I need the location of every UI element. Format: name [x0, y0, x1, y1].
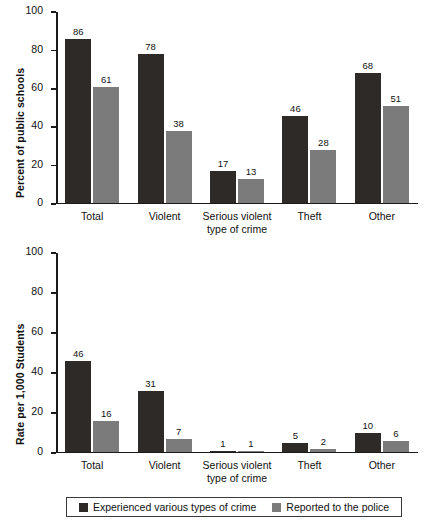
chart-panel-rate: Rate per 1,000 Students 1008060402004616… — [0, 240, 434, 490]
x-category-label-other: Other — [346, 459, 418, 472]
legend-color-swatch — [272, 503, 281, 512]
y-axis-line-bottom — [56, 253, 58, 453]
bar-value-label: 16 — [101, 408, 112, 419]
y-axis-tick-label: 40 — [31, 365, 43, 377]
bar-other-light: 51 — [383, 106, 409, 204]
x-category-label-line1: Violent — [149, 210, 181, 222]
y-axis-tick-label: 0 — [37, 445, 43, 457]
y-axis-tick-label: 0 — [37, 196, 43, 208]
x-category-label-serious-violent: Serious violenttype of crime — [201, 459, 273, 484]
y-axis-tick-label: 60 — [31, 325, 43, 337]
x-category-label-violent: Violent — [128, 459, 200, 472]
bar-value-label: 46 — [290, 103, 301, 114]
dual-bar-chart-figure: Percent of public schools 10080604020086… — [0, 0, 434, 527]
y-axis-tick-label: 20 — [31, 405, 43, 417]
bar-value-label: 1 — [220, 438, 225, 449]
legend-label: Reported to the police — [286, 501, 389, 513]
bar-value-label: 6 — [393, 428, 398, 439]
x-category-label-total: Total — [56, 210, 128, 223]
y-axis-tick-label: 100 — [25, 4, 43, 16]
legend-color-swatch — [79, 503, 88, 512]
plot-area-bottom: 10080604020046163171152106 — [56, 253, 418, 453]
bar-other-dark: 10 — [355, 433, 381, 453]
bar-violent-light: 38 — [166, 131, 192, 204]
bar-value-label: 86 — [73, 26, 84, 37]
x-axis-title: type of crime — [201, 223, 273, 236]
x-category-label-line1: Theft — [297, 210, 321, 222]
y-axis-tick-label: 80 — [31, 43, 43, 55]
x-category-label-theft: Theft — [273, 459, 345, 472]
bar-value-label: 61 — [101, 74, 112, 85]
y-axis-tick-label: 40 — [31, 119, 43, 131]
x-category-label-line1: Total — [81, 210, 103, 222]
y-axis-line-top — [56, 12, 58, 204]
bar-theft-dark: 46 — [282, 116, 308, 204]
bar-value-label: 28 — [318, 137, 329, 148]
bar-value-label: 17 — [218, 158, 229, 169]
bar-value-label: 68 — [363, 60, 374, 71]
bar-violent-dark: 31 — [138, 391, 164, 453]
x-category-label-violent: Violent — [128, 210, 200, 223]
bar-value-label: 5 — [293, 430, 298, 441]
legend-label: Experienced various types of crime — [93, 501, 256, 513]
bar-theft-light: 28 — [310, 150, 336, 204]
y-axis-tick-label: 100 — [25, 245, 43, 257]
bar-value-label: 2 — [321, 436, 326, 447]
y-axis-tick-label: 20 — [31, 158, 43, 170]
x-axis-line-top — [56, 203, 418, 205]
x-category-label-line1: Other — [369, 210, 395, 222]
x-category-label-line1: Total — [81, 459, 103, 471]
bar-value-label: 1 — [248, 438, 253, 449]
x-category-label-line1: Serious violent — [203, 459, 272, 471]
bar-value-label: 10 — [363, 420, 374, 431]
x-category-label-line1: Other — [369, 459, 395, 471]
bar-total-light: 61 — [93, 87, 119, 204]
plot-area-top: 10080604020086617838171346286851 — [56, 12, 418, 204]
bar-value-label: 7 — [176, 426, 181, 437]
bar-violent-dark: 78 — [138, 54, 164, 204]
bar-value-label: 78 — [145, 41, 156, 52]
legend-item-experienced: Experienced various types of crime — [79, 501, 256, 513]
x-category-label-line1: Theft — [297, 459, 321, 471]
x-category-label-theft: Theft — [273, 210, 345, 223]
chart-panel-percent: Percent of public schools 10080604020086… — [0, 0, 434, 240]
y-axis-tick-label: 60 — [31, 81, 43, 93]
y-axis-title-top: Percent of public schools — [14, 68, 26, 198]
x-category-label-line1: Violent — [149, 459, 181, 471]
bar-value-label: 46 — [73, 348, 84, 359]
x-category-label-total: Total — [56, 459, 128, 472]
x-axis-line-bottom — [56, 452, 418, 454]
x-category-label-line1: Serious violent — [203, 210, 272, 222]
bar-value-label: 31 — [145, 378, 156, 389]
x-category-label-serious-violent: Serious violenttype of crime — [201, 210, 273, 235]
y-axis-title-bottom: Rate per 1,000 Students — [14, 324, 26, 445]
bar-value-label: 13 — [246, 166, 257, 177]
bar-total-light: 16 — [93, 421, 119, 453]
y-axis-tick-label: 80 — [31, 285, 43, 297]
chart-legend: Experienced various types of crimeReport… — [66, 497, 402, 517]
bar-total-dark: 86 — [65, 39, 91, 204]
bar-value-label: 38 — [173, 118, 184, 129]
x-axis-title: type of crime — [201, 472, 273, 485]
bar-serious-violent-light: 13 — [238, 179, 264, 204]
bar-serious-violent-dark: 17 — [210, 171, 236, 204]
bar-other-dark: 68 — [355, 73, 381, 204]
legend-item-reported: Reported to the police — [272, 501, 389, 513]
bar-total-dark: 46 — [65, 361, 91, 453]
x-category-label-other: Other — [346, 210, 418, 223]
bar-value-label: 51 — [391, 93, 402, 104]
